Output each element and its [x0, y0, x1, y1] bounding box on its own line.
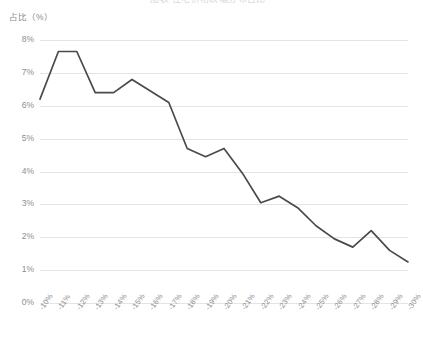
y-tick-label: 2% — [4, 232, 34, 241]
y-tick-label: 7% — [4, 68, 34, 77]
y-tick-label: 1% — [4, 265, 34, 274]
data-series-line — [40, 52, 408, 262]
chart-title: 图表 住宅价格跌幅分布占比 — [0, 0, 416, 3]
series-line — [40, 40, 408, 303]
y-tick-label: 8% — [4, 35, 34, 44]
x-tick-label: -30% — [406, 293, 423, 312]
y-axis-title: 占比（%） — [9, 12, 53, 22]
y-tick-label: 0% — [4, 298, 34, 307]
y-tick-label: 3% — [4, 199, 34, 208]
y-tick-label: 6% — [4, 101, 34, 110]
y-tick-label: 4% — [4, 167, 34, 176]
y-tick-label: 5% — [4, 134, 34, 143]
